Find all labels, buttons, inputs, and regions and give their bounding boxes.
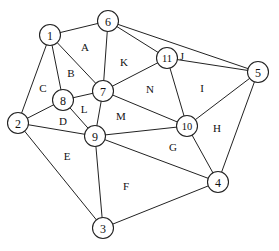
region-label-h: H [213,122,221,134]
graph-edges [18,21,258,228]
node-label: 8 [60,94,66,108]
node-8: 8 [53,90,74,111]
region-label-i: I [200,82,204,94]
region-label-k: K [120,56,128,68]
region-label-j: J [180,50,185,62]
edge-9-4 [95,136,218,182]
node-label: 5 [255,66,261,80]
region-label-f: F [123,180,129,192]
edge-10-5 [187,72,258,126]
edge-9-10 [95,126,187,136]
node-label: 11 [162,53,172,64]
node-label: 1 [47,29,53,43]
region-label-a: A [81,41,89,53]
planar-graph-diagram: ABCDEFGHIJKLMN 1234567891011 [0,0,279,251]
edge-6-5 [108,21,258,72]
node-label: 2 [15,117,21,131]
node-7: 7 [93,81,114,102]
node-label: 6 [105,15,111,29]
edge-3-4 [103,182,218,228]
node-6: 6 [98,11,119,32]
region-label-l: L [81,103,88,115]
region-labels: ABCDEFGHIJKLMN [39,41,221,192]
node-label: 7 [100,85,106,99]
region-label-c: C [39,82,46,94]
region-label-n: N [146,83,154,95]
node-3: 3 [93,218,114,239]
edge-5-4 [218,72,258,182]
edge-1-2 [18,35,50,123]
edge-1-7 [50,35,103,91]
region-label-d: D [59,115,67,127]
node-2: 2 [8,113,29,134]
node-9: 9 [85,126,106,147]
node-4: 4 [208,172,229,193]
edge-9-3 [95,136,103,228]
region-label-m: M [116,110,126,122]
region-label-b: B [67,67,74,79]
node-1: 1 [40,25,61,46]
node-10: 10 [177,116,198,137]
node-5: 5 [248,62,269,83]
node-label: 9 [92,130,98,144]
node-label: 10 [182,121,193,132]
graph-nodes: 1234567891011 [8,11,269,239]
edge-2-9 [18,123,95,136]
node-label: 3 [100,222,106,236]
node-label: 4 [215,176,221,190]
node-11: 11 [157,48,178,69]
region-label-g: G [169,141,177,153]
region-label-e: E [64,150,71,162]
